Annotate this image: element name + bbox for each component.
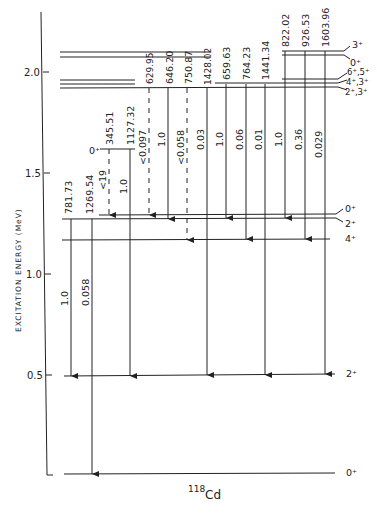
intensity-label: 0.03 [195, 129, 206, 150]
intensity-label: 0.06 [234, 129, 245, 150]
level-2plus-1270 [62, 218, 330, 219]
energy-label: 750.87 [183, 51, 194, 84]
element-symbol: Cd [205, 488, 221, 502]
spin-label: 2⁺,3⁺ [345, 87, 368, 97]
label-connector [330, 218, 343, 222]
level-2plus-488 [64, 374, 335, 376]
intensity-label: 0.36 [293, 129, 304, 150]
tick-label: 1.0 [26, 269, 42, 280]
axis-line [41, 12, 47, 475]
energy-label: 1127.32 [125, 106, 136, 145]
intensity-label: <0.097 [137, 130, 148, 165]
level-ground-state [64, 473, 335, 474]
energy-label: 659.63 [221, 47, 232, 80]
intensity-label: 1.0 [118, 179, 129, 194]
axis-title: EXCITATION ENERGY (MeV) [14, 208, 23, 332]
energy-label: 764.23 [241, 47, 252, 80]
spin-labels: 3⁺ 0⁺ 6⁺,5⁺ 4⁺,3⁺ 2⁺,3⁺ 0⁺ 0⁺ 2⁺ 4⁺ 2⁺ 0… [89, 39, 370, 478]
label-connector [330, 80, 347, 83]
spin-label: 2⁺ [346, 368, 357, 379]
intensity-label: 1.0 [59, 291, 70, 306]
energy-label: 781.73 [63, 181, 74, 214]
energy-label: 345.51 [104, 112, 115, 145]
energy-label: 1428.02 [203, 48, 213, 85]
spin-label: 0⁺ [346, 467, 357, 478]
tick-label: 0.5 [27, 370, 43, 381]
spin-label: 6⁺,5⁺ [347, 67, 370, 77]
energy-axis: 2.0 1.5 1.0 0.5 EXCITATION ENERGY (MeV) [14, 12, 53, 475]
mass-number: 118 [188, 484, 205, 494]
level-0plus-1285 [99, 214, 330, 215]
spin-label: 4⁺,3⁺ [346, 77, 369, 87]
tick-label: 1.5 [25, 168, 41, 179]
intensity-label: 1.0 [156, 132, 167, 147]
energy-label: 646.20 [164, 51, 175, 84]
energy-levels [60, 46, 350, 474]
label-connector [330, 209, 343, 214]
intensity-label: 0.058 [80, 279, 91, 306]
spin-label: 0⁺ [89, 145, 100, 156]
intensity-label: 0.029 [313, 131, 324, 158]
intensity-label: 1.0 [273, 132, 284, 147]
spin-label: 2⁺ [345, 218, 356, 229]
energy-label: 629.95 [145, 53, 155, 85]
label-connector [330, 73, 347, 79]
intensity-label: <19 [97, 170, 108, 190]
label-connector [330, 55, 350, 59]
level-4plus-1170 [62, 239, 330, 240]
energy-label: 926.53 [300, 14, 311, 47]
level-scheme-diagram: 2.0 1.5 1.0 0.5 EXCITATION ENERGY (MeV) [0, 0, 377, 513]
intensity-label: 1.0 [214, 132, 225, 147]
label-connector [330, 46, 350, 51]
level-2plus-3plus [60, 87, 330, 88]
intensity-label: <0.058 [175, 130, 186, 165]
tick-label: 2.0 [24, 67, 40, 78]
spin-label: 4⁺ [345, 233, 356, 244]
energy-label: 1269.54 [84, 175, 95, 214]
energy-label: 822.02 [280, 14, 291, 47]
spin-label: 3⁺ [352, 39, 363, 50]
intensity-label: 0.01 [253, 129, 264, 150]
energy-label: 1603.96 [320, 8, 331, 47]
energy-label: 1441.34 [260, 41, 271, 80]
nucleus-title: 118 Cd [188, 484, 221, 502]
spin-label: 0⁺ [345, 203, 356, 214]
